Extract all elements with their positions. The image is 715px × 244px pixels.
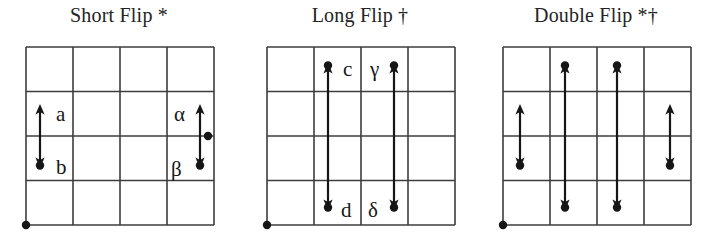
short-flip-grid-svg: a b α β [0, 34, 238, 244]
label-alpha: α [174, 102, 185, 126]
label-gamma: γ [369, 57, 379, 81]
label-b: b [56, 155, 67, 179]
label-delta: δ [368, 198, 378, 222]
long-flip-grid-svg: c d γ δ [241, 34, 479, 244]
arrow-short-left [515, 104, 524, 170]
origin-dot [22, 221, 30, 229]
panel-long-flip: Long Flip † [241, 0, 479, 244]
label-c: c [343, 57, 352, 81]
arrow-short-right [665, 104, 674, 170]
panel-title-short-flip: Short Flip * [0, 4, 238, 27]
label-a: a [56, 102, 66, 126]
label-beta: β [171, 157, 182, 181]
panel-double-flip: Double Flip *† [477, 0, 715, 244]
grid-lines [267, 47, 455, 225]
label-d: d [341, 198, 352, 222]
origin-dot [499, 221, 507, 229]
vertex-dot [204, 132, 212, 140]
panel-title-long-flip: Long Flip † [241, 4, 479, 27]
origin-dot [263, 221, 271, 229]
arrow-a-b [35, 104, 44, 170]
double-flip-grid-svg [477, 34, 715, 244]
grid-lines [503, 47, 691, 225]
arrow-alpha-beta [195, 104, 212, 170]
panel-title-double-flip: Double Flip *† [477, 4, 715, 27]
panel-short-flip: Short Flip * [0, 0, 238, 244]
grid-lines [26, 47, 214, 225]
flip-diagram-figure: Short Flip * [0, 0, 715, 244]
